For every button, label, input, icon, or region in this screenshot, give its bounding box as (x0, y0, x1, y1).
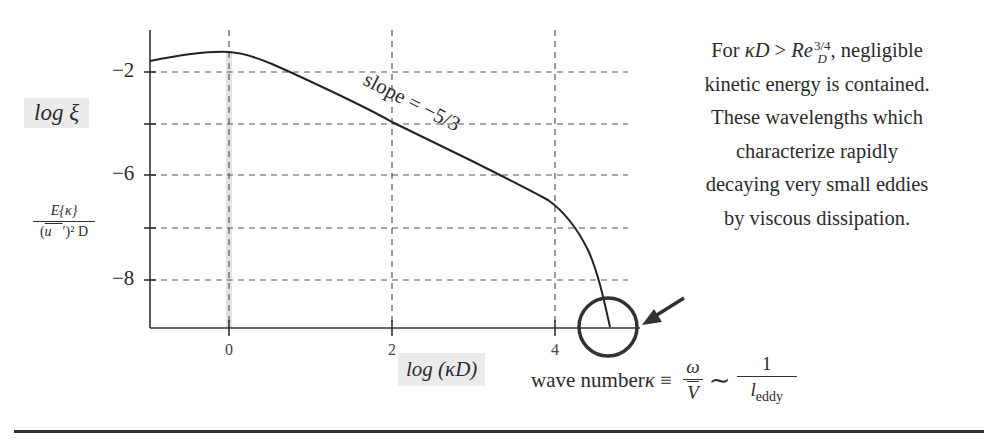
annotation-line-3: These wavelengths which (650, 101, 984, 135)
y-tick-label-neg8: −8 (112, 266, 134, 291)
y-axis-label: log ξ (24, 98, 89, 128)
y-tick-label-neg6: −6 (112, 161, 134, 186)
annotation-line-6: by viscous dissipation. (650, 202, 984, 236)
tilde-symbol: ∼ (709, 365, 731, 396)
bottom-rule (14, 430, 984, 433)
slope-label: slope = −5/3 (360, 67, 465, 136)
annotation-line-4: characterize rapidly (650, 135, 984, 169)
x-tick-label-0: 0 (225, 341, 233, 359)
ratio-fraction-bar (33, 221, 95, 222)
annotation-line-1: For κD > Re3/4D, negligible (650, 34, 984, 68)
x-axis-label: log (κD) (398, 353, 485, 386)
y-tick-label-neg2: −2 (112, 58, 134, 83)
arrow-icon (642, 298, 684, 325)
equiv-symbol: ≡ (655, 368, 677, 393)
annotation-line-2: kinetic energy is contained. (650, 68, 984, 102)
wave-number-prefix: wave number (531, 368, 645, 393)
kappa-symbol: κ (645, 368, 655, 393)
ratio-numerator: E{κ} (33, 203, 95, 220)
wave-number-definition: wave number κ ≡ ω V ∼ 1 leddy (531, 352, 803, 410)
omega-over-v-fraction: ω V (683, 355, 703, 406)
ratio-denominator: (u⃗′)² D (33, 224, 95, 240)
ratio-denominator-rest: ′)² D (63, 224, 89, 239)
inverse-eddy-length-fraction: 1 leddy (737, 352, 798, 410)
dissipation-circle (579, 298, 637, 356)
dissipation-annotation: For κD > Re3/4D, negligible kinetic ener… (650, 34, 984, 235)
annotation-line-5: decaying very small eddies (650, 168, 984, 202)
velocity-vector: u⃗ (45, 224, 63, 239)
energy-ratio-label: E{κ} (u⃗′)² D (33, 203, 95, 240)
x-tick-label-2: 2 (388, 341, 396, 359)
